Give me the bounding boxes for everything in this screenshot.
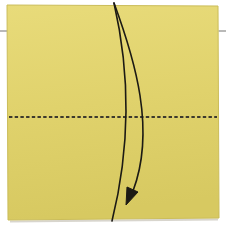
- paper-sheet: [7, 5, 219, 220]
- origami-step-diagram: [0, 0, 226, 231]
- diagram-canvas: [0, 0, 226, 231]
